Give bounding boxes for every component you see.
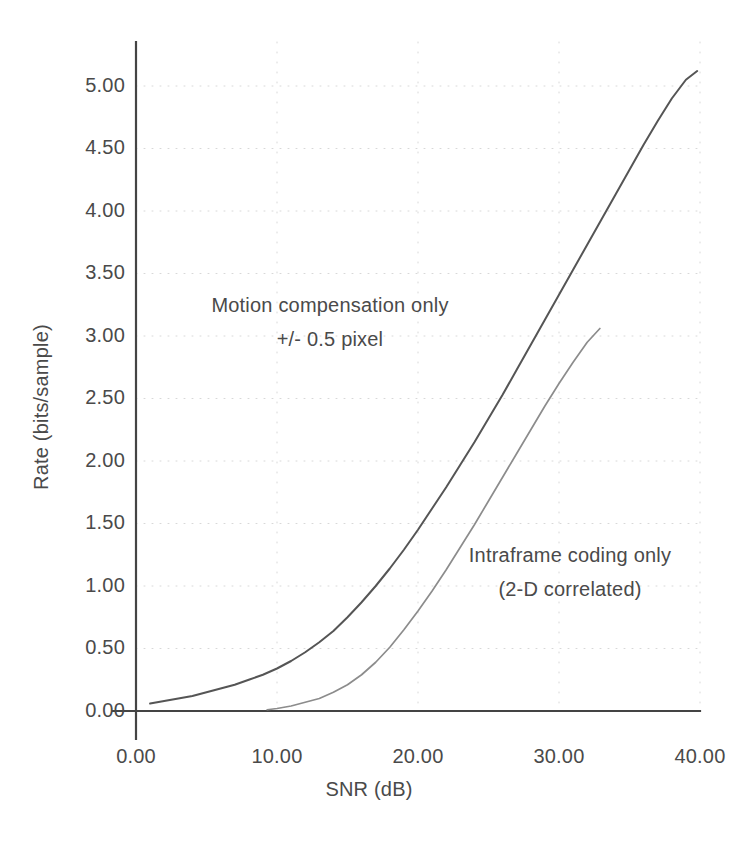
- y-tick-label: 3.50: [45, 261, 125, 284]
- y-tick-label: 3.00: [45, 324, 125, 347]
- intraframe-coding-annotation: Intraframe coding only (2-D correlated): [469, 538, 671, 606]
- y-tick-label: 2.00: [45, 449, 125, 472]
- annotation-line: Motion compensation only: [211, 288, 448, 322]
- x-tick-label: 0.00: [86, 745, 186, 768]
- data-series: [150, 71, 697, 710]
- annotation-line: Intraframe coding only: [469, 538, 671, 572]
- y-tick-label: 1.00: [45, 574, 125, 597]
- x-tick-label: 40.00: [650, 745, 741, 768]
- y-tick-label: 0.00: [45, 699, 125, 722]
- y-tick-label: 4.00: [45, 199, 125, 222]
- axis-lines: [113, 42, 700, 739]
- x-axis-title: SNR (dB): [325, 778, 412, 801]
- x-tick-label: 20.00: [368, 745, 468, 768]
- annotation-line: +/- 0.5 pixel: [211, 322, 448, 356]
- y-axis-title: Rate (bits/sample): [30, 324, 53, 490]
- y-tick-label: 1.50: [45, 511, 125, 534]
- series-line: [150, 71, 697, 704]
- y-tick-label: 2.50: [45, 386, 125, 409]
- x-tick-label: 10.00: [227, 745, 327, 768]
- x-tick-label: 30.00: [509, 745, 609, 768]
- y-tick-label: 0.50: [45, 636, 125, 659]
- chart-figure: 5.00 4.50 4.00 3.50 3.00 2.50 2.00 1.50 …: [0, 0, 741, 841]
- annotation-line: (2-D correlated): [469, 572, 671, 606]
- series-line: [267, 329, 600, 710]
- y-tick-label: 4.50: [45, 136, 125, 159]
- motion-compensation-annotation: Motion compensation only +/- 0.5 pixel: [211, 288, 448, 356]
- y-tick-label: 5.00: [45, 74, 125, 97]
- vertical-gridlines: [277, 42, 700, 711]
